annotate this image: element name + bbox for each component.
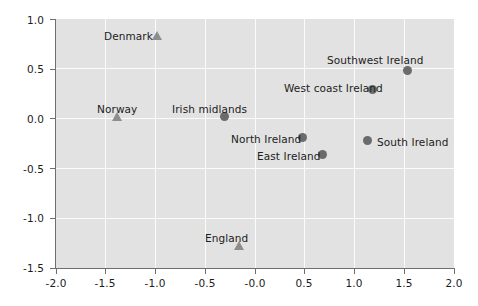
y-axis-tick — [50, 19, 55, 20]
x-axis-tick-label: 0.5 — [279, 278, 329, 289]
gridline-vertical — [304, 19, 305, 268]
data-point-label-norway: Norway — [97, 104, 137, 115]
x-axis-tick-label: -1.5 — [80, 278, 130, 289]
x-axis-tick-label: 1.0 — [329, 278, 379, 289]
y-axis-tick — [50, 268, 55, 269]
gridline-horizontal — [56, 218, 454, 219]
x-axis-tick — [454, 269, 455, 274]
data-point-label-england: England — [205, 233, 248, 244]
x-axis-tick-label: -1.0 — [130, 278, 180, 289]
gridline-horizontal — [56, 168, 454, 169]
data-point-marker-south-ireland[interactable] — [363, 136, 372, 145]
data-point-marker-southwest-ireland[interactable] — [403, 66, 412, 75]
y-axis-tick — [50, 168, 55, 169]
y-axis-tick-label: 1.0 — [0, 15, 44, 26]
y-axis-tick-label: -1.0 — [0, 213, 44, 224]
x-axis-tick — [155, 269, 156, 274]
y-axis-spine — [55, 19, 56, 269]
x-axis-tick-label: -0.5 — [180, 278, 230, 289]
data-point-label-west-coast-ireland: West coast Ireland — [284, 83, 383, 94]
x-axis-tick — [205, 269, 206, 274]
y-axis-tick-label: 0.0 — [0, 114, 44, 125]
data-point-label-north-ireland: North Ireland — [231, 134, 301, 145]
data-point-label-irish-midlands: Irish midlands — [172, 104, 247, 115]
y-axis-tick — [50, 69, 55, 70]
x-axis-tick — [56, 269, 57, 274]
x-axis-tick — [255, 269, 256, 274]
gridline-vertical — [155, 19, 156, 268]
data-point-label-south-ireland: South Ireland — [377, 137, 448, 148]
gridline-vertical — [105, 19, 106, 268]
x-axis-tick — [354, 269, 355, 274]
data-point-label-denmark: Denmark — [104, 31, 153, 42]
y-axis-tick — [50, 118, 55, 119]
x-axis-tick — [404, 269, 405, 274]
x-axis-tick-label: -2.0 — [31, 278, 81, 289]
y-axis-tick-label: -0.5 — [0, 164, 44, 175]
x-axis-tick-label: 1.5 — [379, 278, 429, 289]
data-point-label-southwest-ireland: Southwest Ireland — [327, 55, 424, 66]
x-axis-tick — [304, 269, 305, 274]
y-axis-tick — [50, 218, 55, 219]
scatter-plot-figure: 1.0 0.5 0.0 -0.5 -1.0 -1.5 -2.0 -1.5 -1.… — [0, 0, 478, 306]
gridline-horizontal — [56, 68, 454, 69]
x-axis-tick — [105, 269, 106, 274]
x-axis-tick-label: -0.0 — [230, 278, 280, 289]
x-axis-tick-label: 2.0 — [429, 278, 478, 289]
data-point-marker-denmark[interactable] — [152, 31, 162, 40]
y-axis-tick-label: -1.5 — [0, 263, 44, 274]
y-axis-tick-label: 0.5 — [0, 64, 44, 75]
data-point-label-east-ireland: East Ireland — [257, 151, 321, 162]
gridline-vertical — [205, 19, 206, 268]
